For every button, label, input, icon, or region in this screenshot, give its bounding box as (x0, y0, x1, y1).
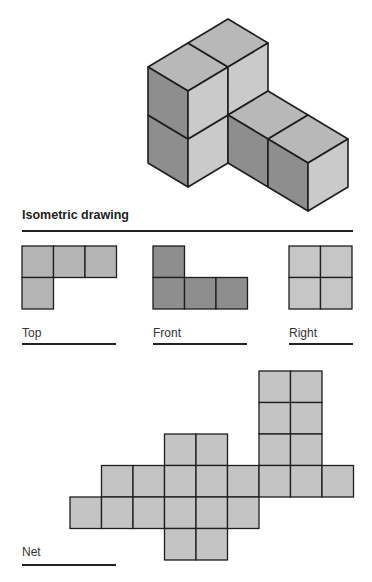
diagram-canvas (0, 0, 372, 582)
net-cell (165, 434, 197, 466)
title-rule (22, 230, 353, 232)
view-cell-top (22, 278, 54, 310)
net-cell (291, 434, 323, 466)
net-cell (165, 466, 197, 498)
net-cell (133, 466, 165, 498)
view-cell-right (321, 278, 353, 310)
net-cell (322, 466, 354, 498)
net-cell (165, 497, 197, 529)
view-rule-right (289, 343, 353, 345)
view-cell-top (85, 246, 117, 278)
net-cell (70, 497, 102, 529)
view-cell-front (216, 278, 248, 310)
view-rule-top (22, 343, 116, 345)
view-rule-front (153, 343, 247, 345)
view-cell-front (153, 278, 185, 310)
net-cell (291, 403, 323, 435)
view-label-front: Front (153, 326, 181, 340)
net-cell (165, 529, 197, 561)
net-cell (102, 466, 134, 498)
view-cell-right (289, 278, 321, 310)
net-cell (196, 466, 228, 498)
net-cell (259, 403, 291, 435)
net-cell (196, 497, 228, 529)
net-cell (291, 371, 323, 403)
view-cell-front (185, 278, 217, 310)
net-cell (291, 466, 323, 498)
orthographic-views (22, 246, 352, 309)
view-cell-front (153, 246, 185, 278)
net-cell (228, 466, 260, 498)
view-cell-right (289, 246, 321, 278)
net-rule (22, 564, 116, 566)
view-label-right: Right (289, 326, 317, 340)
net-cell (196, 434, 228, 466)
isometric-drawing (148, 19, 348, 211)
net-cell (102, 497, 134, 529)
net-label: Net (22, 545, 41, 559)
net-cell (259, 466, 291, 498)
view-cell-right (321, 246, 353, 278)
net-cell (133, 497, 165, 529)
cube-net (70, 371, 354, 560)
view-label-top: Top (22, 326, 41, 340)
net-cell (259, 434, 291, 466)
isometric-title: Isometric drawing (22, 208, 129, 222)
view-cell-top (54, 246, 86, 278)
net-cell (259, 371, 291, 403)
view-cell-top (22, 246, 54, 278)
net-cell (196, 529, 228, 561)
net-cell (228, 497, 260, 529)
